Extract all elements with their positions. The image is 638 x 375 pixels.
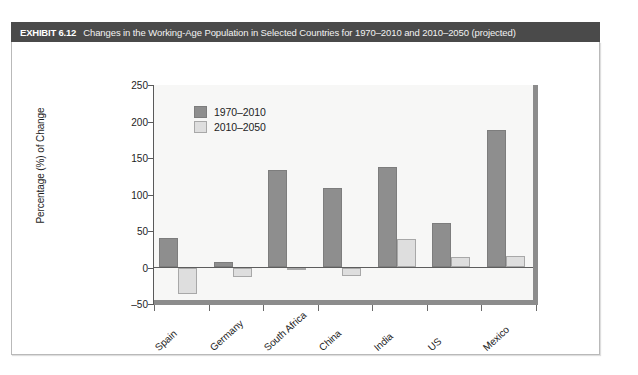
y-axis-tick-100: 100 (108, 189, 148, 200)
bar-south-africa-series1 (268, 170, 287, 268)
bar-india-series2 (397, 239, 416, 267)
bar-mexico-series1 (487, 130, 506, 267)
bar-china-series1 (323, 188, 342, 268)
y-axis-tick-50: 50 (108, 226, 148, 237)
bar-us-series2 (451, 257, 470, 267)
y-axis-tick-mark (148, 158, 153, 159)
y-axis-tick-mark (148, 85, 153, 86)
x-axis-label-germany: Germany (208, 318, 245, 353)
x-axis-tick-mark (263, 305, 264, 311)
bar-us-series1 (432, 223, 451, 268)
exhibit-title: Changes in the Working-Age Population in… (83, 27, 516, 38)
bar-south-africa-series2 (287, 268, 306, 270)
x-axis-bar (154, 300, 538, 305)
exhibit-frame: EXHIBIT 6.12 Changes in the Working-Age … (11, 22, 600, 355)
bar-germany-series1 (214, 262, 233, 267)
bar-spain-series2 (178, 268, 197, 294)
y-axis-tick--50: –50 (108, 299, 148, 310)
bar-mexico-series2 (506, 256, 525, 268)
legend-item-1: 1970–2010 (194, 104, 266, 119)
x-axis-tick-mark (318, 305, 319, 311)
y-axis-tick-250: 250 (108, 80, 148, 91)
x-axis-tick-mark (372, 305, 373, 311)
x-axis-label-mexico: Mexico (481, 324, 511, 353)
legend-swatch-2 (194, 121, 207, 133)
x-axis-tick-mark (427, 305, 428, 311)
y-axis-tick-200: 200 (108, 116, 148, 127)
x-axis-tick-mark (209, 305, 210, 311)
bar-chart: Percentage (%) of Change 250200150100500… (12, 42, 599, 353)
x-axis-label-spain: Spain (153, 328, 179, 353)
legend-item-2: 2010–2050 (194, 119, 266, 134)
y-axis-tick-0: 0 (108, 262, 148, 273)
chart-legend: 1970–20102010–2050 (194, 104, 266, 134)
x-axis-tick-mark (481, 305, 482, 311)
x-axis-label-china: China (317, 328, 343, 353)
x-axis-tick-mark (536, 305, 537, 311)
y-axis-title: Percentage (%) of Change (35, 76, 46, 256)
x-axis-tick-mark (154, 305, 155, 311)
legend-label-2: 2010–2050 (214, 121, 266, 133)
x-axis-label-south-africa: South Africa (262, 309, 309, 352)
legend-swatch-1 (194, 106, 207, 118)
x-axis-label-us: US (426, 336, 444, 353)
y-axis-tick-mark (148, 195, 153, 196)
x-axis-label-india: India (371, 331, 394, 353)
right-axis-bar (533, 85, 538, 305)
y-axis-tick-mark (148, 268, 153, 269)
exhibit-header: EXHIBIT 6.12 Changes in the Working-Age … (11, 22, 600, 42)
y-axis-tick-mark (148, 122, 153, 123)
y-axis-tick-labels: 250200150100500–50 (102, 42, 148, 353)
y-axis-tick-150: 150 (108, 153, 148, 164)
y-axis-tick-mark (148, 304, 153, 305)
bar-germany-series2 (233, 268, 252, 277)
y-axis-tick-mark (148, 231, 153, 232)
exhibit-body: Percentage (%) of Change 250200150100500… (11, 42, 600, 355)
bar-spain-series1 (159, 238, 178, 268)
bar-india-series1 (378, 167, 397, 268)
exhibit-number: EXHIBIT 6.12 (20, 27, 76, 38)
bar-china-series2 (342, 268, 361, 276)
legend-label-1: 1970–2010 (214, 106, 266, 118)
